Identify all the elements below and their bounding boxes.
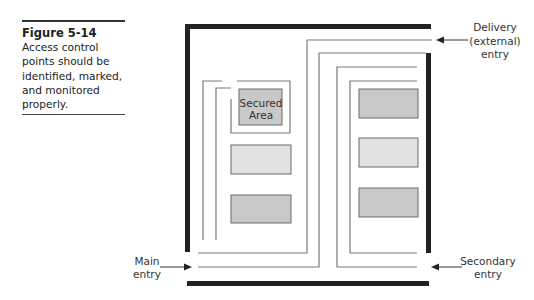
wall-left: [185, 24, 190, 252]
delivery-arrow-icon: [436, 37, 444, 44]
left-corridor-outer: [203, 81, 222, 240]
room-right-bottom: [359, 188, 418, 217]
main-entry-arrow-icon: [184, 264, 192, 271]
secondary-entry-label-line1: Secondary: [460, 255, 516, 267]
secondary-entry-label-line2: entry: [474, 268, 502, 280]
floor-plan-diagram: Secured Area Delivery (external) entry M…: [0, 0, 534, 300]
left-corridor-middle: [216, 88, 231, 240]
main-entry-label-line2: entry: [133, 268, 161, 280]
room-right-top: [359, 89, 418, 118]
secured-area-label-line1: Secured: [240, 97, 283, 109]
wall-right: [426, 53, 431, 253]
delivery-label-line3: entry: [481, 48, 509, 60]
secondary-entry-arrow-icon: [431, 264, 439, 271]
room-left-middle: [231, 145, 291, 174]
delivery-label-line1: Delivery: [473, 21, 517, 33]
delivery-label-line2: (external): [469, 35, 520, 47]
wall-top: [185, 24, 431, 29]
wall-bottom: [187, 281, 429, 286]
main-entry-label-line1: Main: [134, 255, 159, 267]
room-left-bottom: [231, 195, 291, 223]
secured-area-label-line2: Area: [249, 109, 273, 121]
room-right-middle: [359, 138, 418, 167]
